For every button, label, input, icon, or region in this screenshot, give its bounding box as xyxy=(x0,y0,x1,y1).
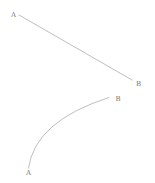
figure-canvas: A B B A xyxy=(0,0,155,183)
diagram-svg: A B B A xyxy=(0,0,155,183)
figure-background xyxy=(0,0,155,183)
straight-segment-label-b: B xyxy=(136,80,141,88)
curved-segment-label-a: A xyxy=(25,169,32,177)
straight-segment-label-a: A xyxy=(10,11,17,19)
curved-segment-label-b: B xyxy=(115,95,120,103)
